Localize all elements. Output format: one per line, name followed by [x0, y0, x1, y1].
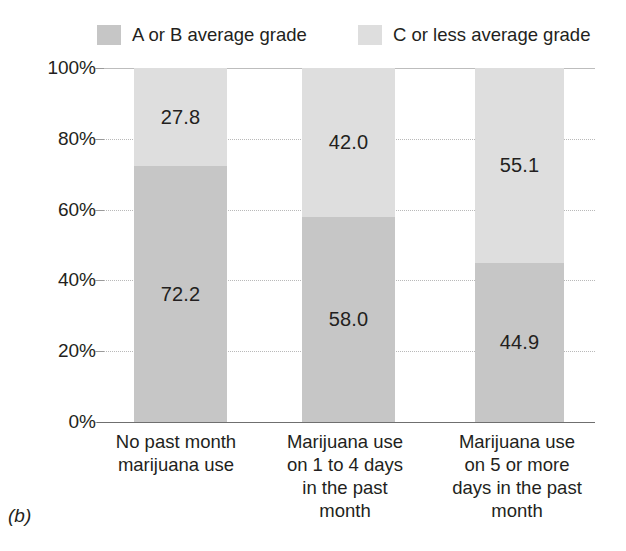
legend-item-c-or-less: C or less average grade — [358, 22, 590, 48]
bar-stack-no-past-month[interactable]: 72.2 27.8 — [134, 68, 227, 422]
x-axis-label-line: Marijuana use — [262, 430, 428, 453]
bar-segment-a-or-b[interactable]: 58.0 — [302, 217, 395, 422]
bar-value-label: 55.1 — [500, 154, 540, 177]
x-axis-label-1-to-4-days: Marijuana use on 1 to 4 days in the past… — [262, 430, 428, 522]
x-axis-category-labels: No past month marijuana use Marijuana us… — [0, 430, 626, 530]
x-axis-line — [97, 422, 595, 423]
y-tick-60 — [95, 210, 104, 211]
y-axis-tick-label-80: 80% — [0, 128, 96, 150]
y-axis-tick-label-20: 20% — [0, 340, 96, 362]
legend-swatch-icon — [358, 25, 382, 45]
x-axis-label-line: marijuana use — [96, 453, 256, 476]
bar-stack-5-or-more-days[interactable]: 44.9 55.1 — [475, 68, 564, 422]
bar-value-label: 72.2 — [161, 283, 201, 306]
bar-segment-a-or-b[interactable]: 44.9 — [475, 263, 564, 422]
bar-value-label: 44.9 — [500, 331, 540, 354]
x-axis-label-line: on 5 or more — [432, 453, 602, 476]
bar-segment-c-or-less[interactable]: 42.0 — [302, 68, 395, 217]
y-tick-40 — [95, 280, 104, 281]
x-axis-label-line: in the past — [262, 476, 428, 499]
x-axis-label-5-or-more-days: Marijuana use on 5 or more days in the p… — [432, 430, 602, 522]
legend-swatch-icon — [97, 25, 121, 45]
bar-stack-1-to-4-days[interactable]: 58.0 42.0 — [302, 68, 395, 422]
x-axis-label-line: month — [432, 499, 602, 522]
x-axis-label-no-past-month: No past month marijuana use — [96, 430, 256, 476]
legend-label: A or B average grade — [132, 25, 307, 45]
y-axis-tick-label-100: 100% — [0, 57, 96, 79]
x-axis-label-line: month — [262, 499, 428, 522]
bar-value-label: 58.0 — [329, 308, 369, 331]
y-tick-100 — [95, 68, 104, 69]
chart-legend: A or B average grade C or less average g… — [0, 22, 626, 48]
bar-value-label: 42.0 — [329, 131, 369, 154]
bar-segment-c-or-less[interactable]: 55.1 — [475, 68, 564, 263]
bar-segment-c-or-less[interactable]: 27.8 — [134, 68, 227, 166]
legend-label: C or less average grade — [393, 25, 590, 45]
plot-area: 72.2 27.8 58.0 42.0 44.9 55.1 — [104, 68, 595, 422]
y-tick-20 — [95, 351, 104, 352]
x-axis-label-line: Marijuana use — [432, 430, 602, 453]
figure-marker: (b) — [8, 505, 31, 527]
x-axis-label-line: on 1 to 4 days — [262, 453, 428, 476]
bar-value-label: 27.8 — [161, 106, 201, 129]
x-axis-label-line: No past month — [96, 430, 256, 453]
bar-segment-a-or-b[interactable]: 72.2 — [134, 166, 227, 422]
y-axis: 100% 80% 60% 40% 20% 0% — [0, 68, 96, 422]
x-axis-label-line: days in the past — [432, 476, 602, 499]
y-tick-80 — [95, 139, 104, 140]
y-axis-tick-label-60: 60% — [0, 199, 96, 221]
legend-item-a-or-b: A or B average grade — [97, 22, 307, 48]
y-axis-tick-label-40: 40% — [0, 269, 96, 291]
